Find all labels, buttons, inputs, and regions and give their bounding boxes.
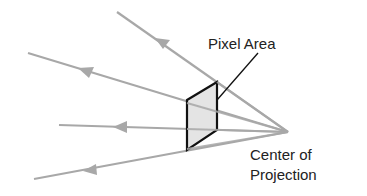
center-of-projection-label-line2: Projection — [250, 166, 317, 183]
pixel-area-label: Pixel Area — [208, 35, 276, 52]
ray-arrowheads — [78, 38, 170, 175]
pixel-area-leader — [217, 53, 258, 100]
pixel-area-shape — [187, 82, 217, 150]
arrow-icon — [113, 121, 127, 133]
center-of-projection-label-line1: Center of — [250, 146, 312, 163]
